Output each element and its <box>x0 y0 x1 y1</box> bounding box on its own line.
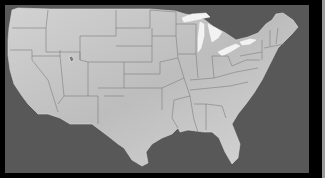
map-frame <box>0 0 325 178</box>
us-map <box>0 0 325 178</box>
us-landmass <box>8 8 298 166</box>
